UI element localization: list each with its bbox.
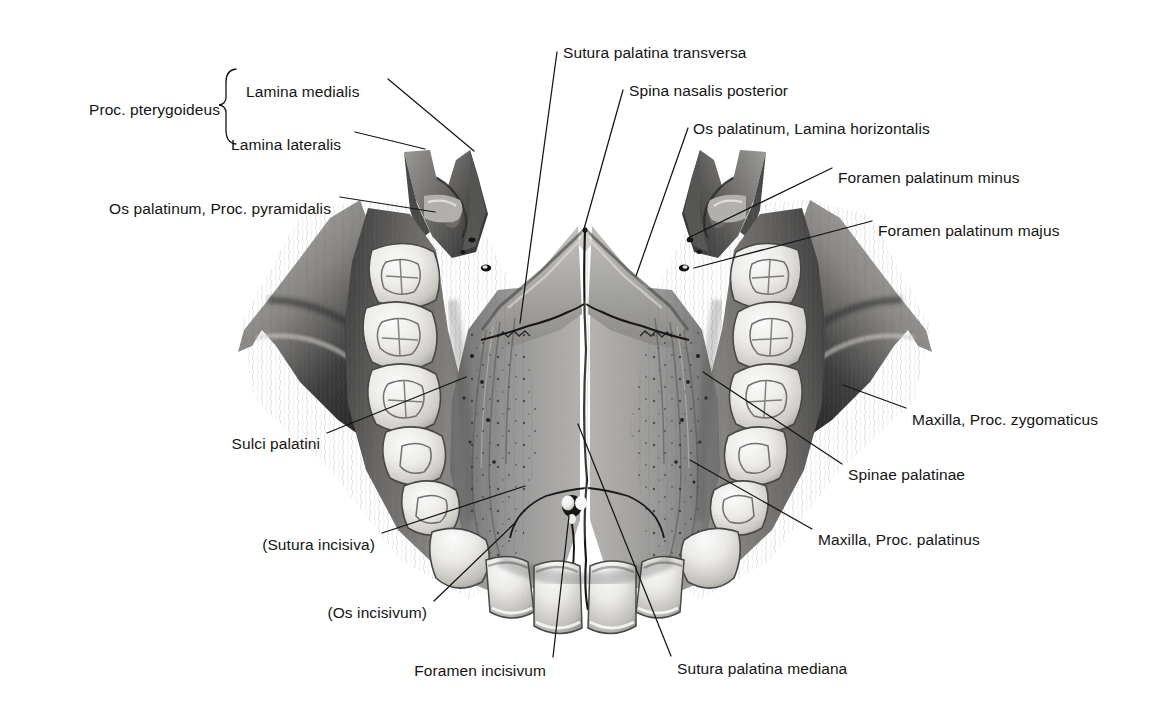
label-os-incisivum: (Os incisivum) <box>327 605 427 621</box>
label-sutura-palatina-transversa: Sutura palatina transversa <box>563 45 747 61</box>
label-foramen-palatinum-minus: Foramen palatinum minus <box>838 170 1020 186</box>
label-sutura-incisiva: (Sutura incisiva) <box>262 537 375 553</box>
label-lamina-medialis: Lamina medialis <box>246 84 360 100</box>
label-spinae-palatinae: Spinae palatinae <box>848 467 965 483</box>
label-maxilla-proc-palatinus: Maxilla, Proc. palatinus <box>818 532 980 548</box>
figure-canvas: Proc. pterygoideusLamina medialisLamina … <box>0 0 1167 712</box>
label-sulci-palatini: Sulci palatini <box>232 436 320 452</box>
proc-pyramidalis-left <box>424 195 463 223</box>
label-proc-pterygoideus: Proc. pterygoideus <box>89 102 220 118</box>
leader-lamina-lateralis <box>355 132 425 149</box>
label-spina-nasalis-posterior: Spina nasalis posterior <box>629 83 788 99</box>
leader-spina-nasalis <box>584 90 623 229</box>
foramen-palatinum-majus-right <box>679 265 689 272</box>
label-os-palatinum-lamina-horiz: Os palatinum, Lamina horizontalis <box>693 121 930 137</box>
proc-pyramidalis-right <box>707 195 746 223</box>
label-foramen-palatinum-majus: Foramen palatinum majus <box>878 223 1060 239</box>
foramen-palatinum-majus-left <box>481 265 491 272</box>
label-os-palatinum-proc-pyramidalis: Os palatinum, Proc. pyramidalis <box>109 201 331 217</box>
pterygoid-brace <box>219 69 236 144</box>
label-foramen-incisivum: Foramen incisivum <box>414 663 546 679</box>
label-lamina-lateralis: Lamina lateralis <box>231 137 341 153</box>
specimen-group <box>238 150 940 634</box>
leader-lamina-medialis <box>388 79 474 151</box>
label-sutura-palatina-mediana: Sutura palatina mediana <box>677 661 847 677</box>
label-maxilla-proc-zygomaticus: Maxilla, Proc. zygomaticus <box>912 412 1098 428</box>
